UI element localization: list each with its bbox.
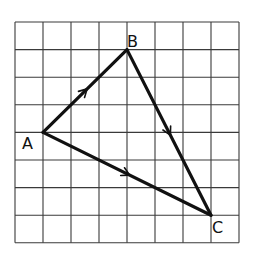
vertex-label-c: C (212, 218, 223, 237)
square-grid (15, 22, 239, 243)
vertex-label-a: A (22, 134, 33, 153)
vertex-label-b: B (127, 32, 138, 51)
vector-triangle-diagram: A B C (0, 0, 253, 260)
edge-ab (43, 50, 127, 133)
